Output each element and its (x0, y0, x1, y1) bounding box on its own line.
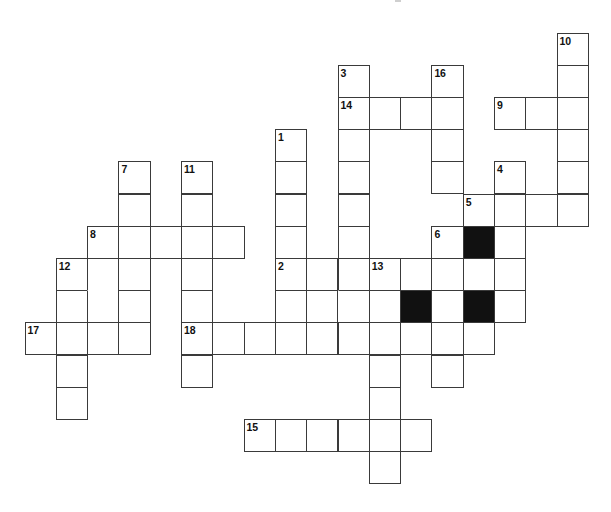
cell[interactable] (369, 451, 401, 484)
cell[interactable] (494, 290, 526, 323)
cell[interactable] (181, 258, 213, 291)
cell-8[interactable]: 8 (87, 226, 119, 259)
clue-number: 7 (121, 164, 127, 175)
cell-1[interactable]: 1 (275, 129, 307, 162)
clue-number: 9 (497, 100, 503, 111)
cell[interactable] (306, 322, 338, 355)
cell[interactable] (557, 161, 589, 194)
cell[interactable] (244, 322, 276, 355)
block-cell (400, 290, 432, 323)
clue-number: 16 (434, 68, 445, 79)
cell-3[interactable]: 3 (338, 65, 370, 98)
cell[interactable] (431, 161, 463, 194)
cell[interactable] (369, 290, 401, 323)
cell[interactable] (557, 97, 589, 130)
cell[interactable] (463, 322, 495, 355)
cell[interactable] (400, 97, 432, 130)
cell-5[interactable]: 5 (463, 194, 495, 227)
cell[interactable] (369, 387, 401, 420)
cell[interactable] (557, 194, 589, 227)
cell[interactable] (338, 161, 370, 194)
cell[interactable] (118, 290, 150, 323)
cell[interactable] (306, 290, 338, 323)
cell[interactable] (306, 258, 338, 291)
cell[interactable] (338, 258, 370, 291)
cell[interactable] (400, 419, 432, 452)
cell-11[interactable]: 11 (181, 161, 213, 194)
cell[interactable] (338, 290, 370, 323)
cell[interactable] (212, 226, 244, 259)
cell-7[interactable]: 7 (118, 161, 150, 194)
cell[interactable] (275, 161, 307, 194)
cell-13[interactable]: 13 (369, 258, 401, 291)
cell[interactable] (338, 226, 370, 259)
cell[interactable] (181, 226, 213, 259)
cell[interactable] (557, 65, 589, 98)
cell[interactable] (118, 226, 150, 259)
cell[interactable] (56, 355, 88, 388)
cell[interactable] (431, 290, 463, 323)
cell[interactable] (494, 258, 526, 291)
cell[interactable] (338, 129, 370, 162)
cell[interactable] (306, 419, 338, 452)
cell-15[interactable]: 15 (244, 419, 276, 452)
cell[interactable] (557, 129, 589, 162)
clue-number: 13 (372, 261, 383, 272)
cell[interactable] (338, 419, 370, 452)
cell[interactable] (338, 194, 370, 227)
clue-number: 3 (341, 68, 347, 79)
cell[interactable] (87, 290, 119, 323)
cell[interactable] (87, 258, 119, 291)
cell-12[interactable]: 12 (56, 258, 88, 291)
cell[interactable] (181, 355, 213, 388)
cell[interactable] (494, 194, 526, 227)
clue-number: 14 (341, 100, 352, 111)
scan-artifact (395, 0, 401, 2)
cell[interactable] (56, 322, 88, 355)
cell-2[interactable]: 2 (275, 258, 307, 291)
cell[interactable] (431, 355, 463, 388)
cell[interactable] (275, 419, 307, 452)
cell[interactable] (275, 290, 307, 323)
cell[interactable] (369, 322, 401, 355)
cell-16[interactable]: 16 (431, 65, 463, 98)
cell-10[interactable]: 10 (557, 33, 589, 66)
cell[interactable] (275, 194, 307, 227)
cell[interactable] (431, 258, 463, 291)
cell[interactable] (56, 387, 88, 420)
block-cell (463, 290, 495, 323)
cell[interactable] (150, 226, 182, 259)
cell[interactable] (118, 258, 150, 291)
cell-17[interactable]: 17 (25, 322, 57, 355)
cell-9[interactable]: 9 (494, 97, 526, 130)
cell[interactable] (400, 322, 432, 355)
cell[interactable] (212, 322, 244, 355)
cell[interactable] (275, 226, 307, 259)
cell[interactable] (400, 258, 432, 291)
cell[interactable] (525, 194, 557, 227)
cell[interactable] (118, 194, 150, 227)
clue-number: 12 (59, 261, 70, 272)
cell-18[interactable]: 18 (181, 322, 213, 355)
cell[interactable] (369, 419, 401, 452)
cell[interactable] (87, 322, 119, 355)
cell[interactable] (181, 290, 213, 323)
cell[interactable] (275, 322, 307, 355)
cell[interactable] (338, 322, 370, 355)
cell[interactable] (369, 97, 401, 130)
clue-number: 15 (247, 422, 258, 433)
cell[interactable] (181, 194, 213, 227)
cell[interactable] (431, 322, 463, 355)
cell-14[interactable]: 14 (338, 97, 370, 130)
cell[interactable] (525, 97, 557, 130)
cell[interactable] (369, 355, 401, 388)
cell[interactable] (463, 258, 495, 291)
cell[interactable] (494, 226, 526, 259)
block-cell (463, 226, 495, 259)
cell-6[interactable]: 6 (431, 226, 463, 259)
cell-4[interactable]: 4 (494, 161, 526, 194)
cell[interactable] (118, 322, 150, 355)
cell[interactable] (56, 290, 88, 323)
cell[interactable] (431, 97, 463, 130)
cell[interactable] (431, 129, 463, 162)
